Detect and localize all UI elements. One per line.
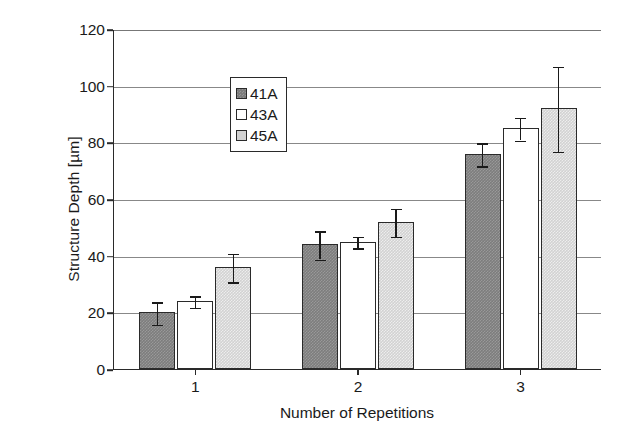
legend-swatch-icon [236, 109, 247, 120]
legend-item-label: 43A [250, 107, 278, 123]
plot-area: 123 41A43A45A [113, 30, 601, 370]
error-bar-cap-upper [353, 237, 364, 239]
x-axis-title: Number of Repetitions [113, 404, 601, 422]
x-tick-mark [520, 370, 522, 375]
gridline [114, 30, 601, 31]
legend-item-label: 41A [250, 86, 278, 102]
bar[interactable] [177, 301, 213, 369]
error-bar-line [482, 143, 484, 166]
error-bar-line [395, 209, 397, 237]
bar[interactable] [302, 244, 338, 369]
error-bar-line [558, 67, 560, 152]
gridline [114, 87, 601, 88]
error-bar-cap-lower [152, 325, 163, 327]
y-tick-label: 60 [0, 191, 105, 209]
y-tick-label: 100 [0, 78, 105, 96]
y-tick-label: 120 [0, 21, 105, 39]
error-bar-line [357, 237, 359, 248]
x-tick-label: 1 [175, 378, 215, 396]
y-tick-label: 20 [0, 304, 105, 322]
error-bar-line [195, 296, 197, 307]
error-bar-cap-lower [353, 248, 364, 250]
x-tick-mark [357, 370, 359, 375]
error-bar-cap-upper [190, 296, 201, 298]
error-bar-cap-upper [391, 209, 402, 211]
error-bar-line [319, 231, 321, 259]
error-bar-cap-lower [515, 141, 526, 143]
y-tick-label: 80 [0, 134, 105, 152]
x-tick-label: 3 [501, 378, 541, 396]
x-tick-label: 2 [338, 378, 378, 396]
legend: 41A43A45A [230, 77, 287, 152]
legend-item[interactable]: 45A [236, 125, 278, 146]
error-bar-cap-upper [152, 302, 163, 304]
error-bar-cap-upper [553, 67, 564, 69]
error-bar-cap-lower [190, 308, 201, 310]
y-tick-label: 40 [0, 248, 105, 266]
y-tick-label: 0 [0, 361, 105, 379]
error-bar-cap-lower [391, 237, 402, 239]
error-bar-cap-upper [228, 254, 239, 256]
legend-item-label: 45A [250, 128, 278, 144]
bar[interactable] [340, 242, 376, 370]
error-bar-line [520, 118, 522, 141]
x-tick-mark [195, 370, 197, 375]
bar[interactable] [465, 154, 501, 369]
error-bar-cap-lower [315, 260, 326, 262]
error-bar-cap-upper [315, 231, 326, 233]
legend-swatch-icon [236, 130, 247, 141]
legend-item[interactable]: 41A [236, 83, 278, 104]
error-bar-cap-upper [477, 143, 488, 145]
error-bar-line [233, 254, 235, 282]
legend-item[interactable]: 43A [236, 104, 278, 125]
error-bar-cap-lower [477, 166, 488, 168]
error-bar-cap-upper [515, 118, 526, 120]
error-bar-cap-lower [553, 152, 564, 154]
legend-swatch-icon [236, 88, 247, 99]
error-bar-cap-lower [228, 282, 239, 284]
error-bar-line [157, 302, 159, 325]
bar[interactable] [378, 222, 414, 369]
bar-chart-figure: Structure Depth [µm] 020406080100120 123… [0, 0, 630, 443]
bar[interactable] [503, 128, 539, 369]
